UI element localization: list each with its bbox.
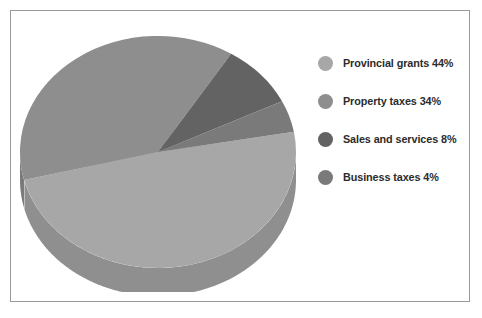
legend-item-provincial-grants[interactable]: Provincial grants 44%: [318, 44, 466, 82]
legend-swatch-icon-sales-and-services: [318, 132, 333, 147]
legend-label-provincial-grants: Provincial grants 44%: [343, 57, 453, 69]
legend-label-property-taxes: Property taxes 34%: [343, 95, 441, 107]
legend-swatch-icon-property-taxes: [318, 94, 333, 109]
pie-chart-svg: [14, 14, 314, 292]
legend-item-sales-and-services[interactable]: Sales and services 8%: [318, 120, 466, 158]
legend-swatch-icon-business-taxes: [318, 170, 333, 185]
legend-label-business-taxes: Business taxes 4%: [343, 171, 439, 183]
legend-swatch-icon-provincial-grants: [318, 56, 333, 71]
pie-top-faces: [20, 36, 296, 268]
legend-label-sales-and-services: Sales and services 8%: [343, 133, 456, 145]
legend-item-business-taxes[interactable]: Business taxes 4%: [318, 158, 466, 196]
pie-chart-plot-area: [14, 14, 314, 292]
pie-chart-figure: Provincial grants 44% Property taxes 34%…: [0, 0, 482, 318]
chart-legend: Provincial grants 44% Property taxes 34%…: [318, 44, 466, 196]
legend-item-property-taxes[interactable]: Property taxes 34%: [318, 82, 466, 120]
